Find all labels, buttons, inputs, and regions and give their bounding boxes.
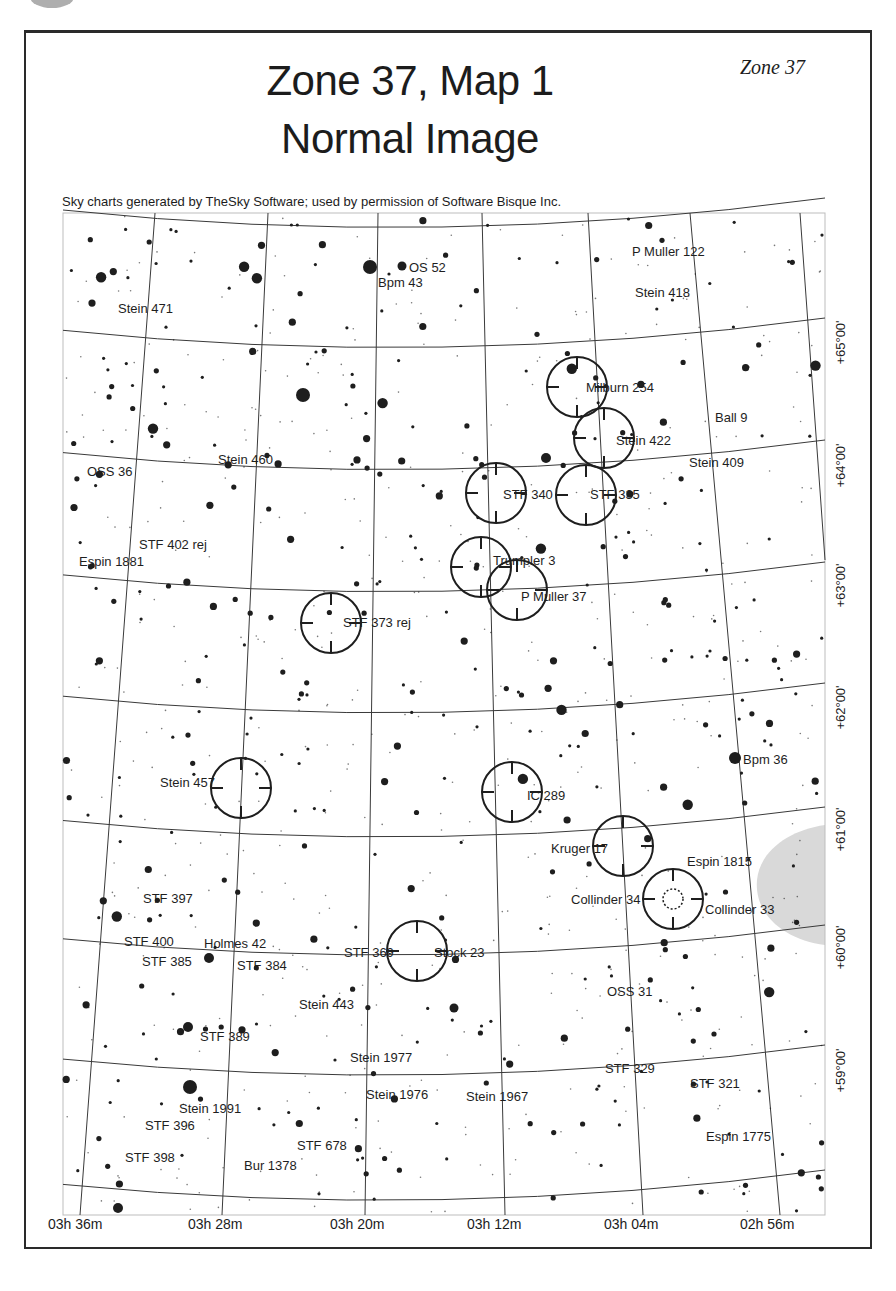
object-label: STF 384 xyxy=(237,958,287,973)
object-label: STF 678 xyxy=(297,1138,347,1153)
object-label: OSS 36 xyxy=(87,464,133,479)
object-label: Espin 1775 xyxy=(706,1129,771,1144)
ra-tick-label: 02h 56m xyxy=(740,1216,794,1232)
object-label: Bur 1378 xyxy=(244,1158,297,1173)
object-label: Stein 1967 xyxy=(466,1089,528,1104)
object-label: Stein 471 xyxy=(118,301,173,316)
object-label: STF 321 xyxy=(690,1076,740,1091)
object-label: Stein 418 xyxy=(635,285,690,300)
object-label: OSS 31 xyxy=(607,984,653,999)
dec-tick-label: +64°00' xyxy=(833,436,848,496)
ra-tick-label: 03h 12m xyxy=(467,1216,521,1232)
nebula-shade xyxy=(757,825,825,945)
object-label: Espin 1881 xyxy=(79,554,144,569)
object-label: Ball 9 xyxy=(715,410,748,425)
object-label: STF 398 xyxy=(125,1150,175,1165)
object-label: P Muller 122 xyxy=(632,244,705,259)
object-label: Stein 457 xyxy=(160,775,215,790)
object-label: Milburn 254 xyxy=(586,380,654,395)
object-label: STF 340 xyxy=(503,487,553,502)
object-label: IC 289 xyxy=(527,788,565,803)
object-label: Stock 23 xyxy=(434,945,485,960)
object-label: Stein 460 xyxy=(218,452,273,467)
object-label: Stein 1991 xyxy=(179,1101,241,1116)
coordinate-grid xyxy=(63,198,825,1215)
object-label: Stein 1976 xyxy=(366,1087,428,1102)
ra-tick-label: 03h 20m xyxy=(330,1216,384,1232)
dec-tick-label: +60°00' xyxy=(833,918,848,978)
object-label: Stein 1977 xyxy=(350,1050,412,1065)
target-circles xyxy=(211,357,703,981)
dec-tick-label: +63°00' xyxy=(833,556,848,616)
object-label: Holmes 42 xyxy=(204,936,266,951)
object-label: OS 52 xyxy=(409,260,446,275)
object-label: STF 329 xyxy=(605,1061,655,1076)
target-circle xyxy=(211,758,271,818)
object-label: STF 389 xyxy=(200,1029,250,1044)
dec-tick-label: +61°00' xyxy=(833,800,848,860)
star-field xyxy=(63,216,825,1213)
object-label: STF 402 rej xyxy=(139,537,207,552)
ra-tick-label: 03h 36m xyxy=(48,1216,102,1232)
object-label: STF 369 xyxy=(344,945,394,960)
ra-tick-label: 03h 28m xyxy=(188,1216,242,1232)
object-label: Espin 1815 xyxy=(687,854,752,869)
object-label: Kruger 17 xyxy=(551,841,608,856)
object-label: STF 335 xyxy=(590,487,640,502)
object-label: Bpm 36 xyxy=(743,752,788,767)
object-labels: OS 52Bpm 43P Muller 122Stein 471Stein 41… xyxy=(79,244,788,1173)
object-label: Collinder 33 xyxy=(705,902,774,917)
object-label: Trumpler 3 xyxy=(493,553,555,568)
object-label: Stein 409 xyxy=(689,455,744,470)
dec-tick-label: +65°00' xyxy=(833,313,848,373)
object-label: P Muller 37 xyxy=(521,589,587,604)
ra-tick-label: 03h 04m xyxy=(604,1216,658,1232)
object-label: Stein 443 xyxy=(299,997,354,1012)
object-label: Stein 422 xyxy=(616,433,671,448)
object-label: STF 385 xyxy=(142,954,192,969)
dec-tick-label: +59°00' xyxy=(833,1041,848,1101)
object-label: Collinder 34 xyxy=(571,892,640,907)
object-label: STF 373 rej xyxy=(343,615,411,630)
object-label: Bpm 43 xyxy=(378,275,423,290)
object-label: STF 396 xyxy=(145,1118,195,1133)
object-label: STF 400 xyxy=(124,934,174,949)
target-circle xyxy=(643,869,703,929)
dec-tick-label: +62°00' xyxy=(833,678,848,738)
object-label: STF 397 xyxy=(143,891,193,906)
star-chart[interactable]: OS 52Bpm 43P Muller 122Stein 471Stein 41… xyxy=(0,0,896,1291)
